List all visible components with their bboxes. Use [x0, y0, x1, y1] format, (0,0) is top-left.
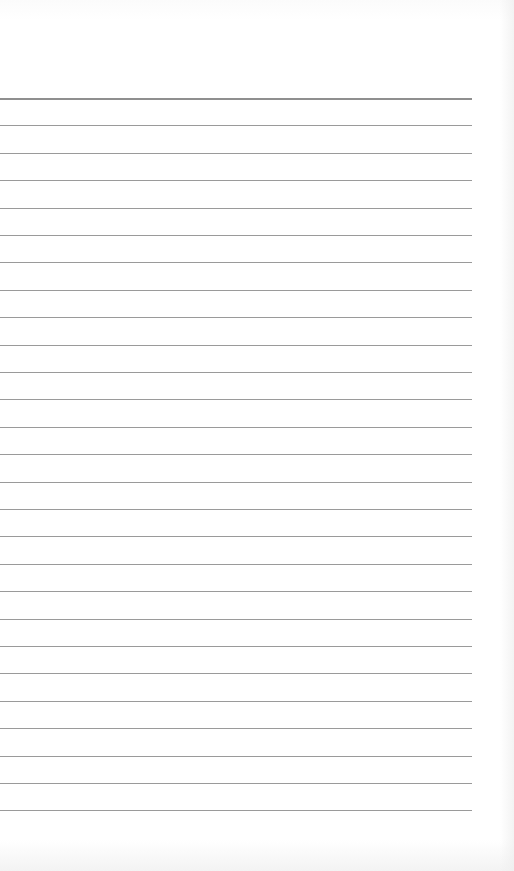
lined-paper-page: [0, 0, 514, 871]
ruled-line: [0, 673, 472, 674]
ruled-line: [0, 810, 472, 811]
ruled-line: [0, 564, 472, 565]
ruled-line: [0, 482, 472, 483]
ruled-line: [0, 701, 472, 702]
ruled-line: [0, 591, 472, 592]
ruled-line: [0, 756, 472, 757]
ruled-line: [0, 372, 472, 373]
ruled-line: [0, 317, 472, 318]
ruled-line: [0, 509, 472, 510]
ruled-line: [0, 646, 472, 647]
ruled-line: [0, 783, 472, 784]
ruled-line: [0, 180, 472, 181]
ruled-line: [0, 619, 472, 620]
ruled-line: [0, 345, 472, 346]
ruled-line: [0, 262, 472, 263]
ruled-line: [0, 235, 472, 236]
page-edge-shadow: [500, 0, 514, 871]
ruled-line: [0, 427, 472, 428]
ruled-line: [0, 208, 472, 209]
ruled-line: [0, 98, 472, 100]
ruled-line: [0, 536, 472, 537]
ruled-line: [0, 399, 472, 400]
ruled-line: [0, 290, 472, 291]
ruled-line: [0, 728, 472, 729]
ruled-line: [0, 454, 472, 455]
ruled-line: [0, 125, 472, 126]
ruled-line: [0, 153, 472, 154]
